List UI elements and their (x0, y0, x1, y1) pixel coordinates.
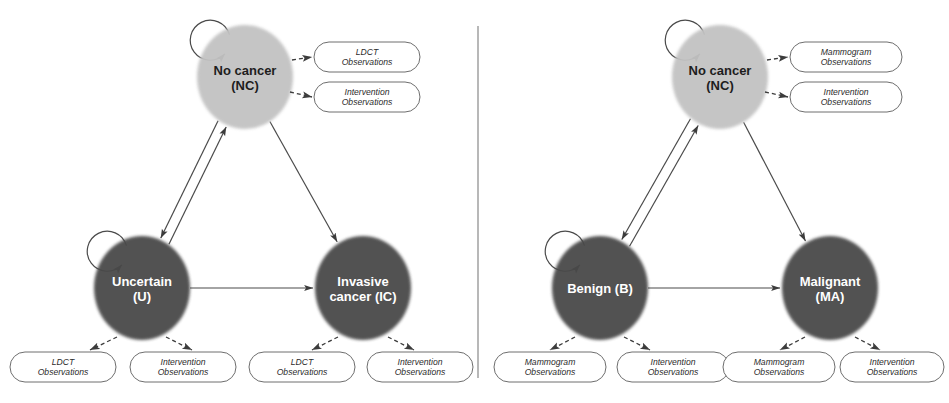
observation-u-intervention-arrow (166, 337, 192, 350)
observation-b-mammogram-arrow (550, 337, 575, 350)
observation-nc-mammogram-arrow (767, 57, 788, 60)
observation-u-ldct-arrow (90, 337, 117, 350)
state-invasive-cancer[interactable]: Invasivecancer (IC) (315, 236, 411, 340)
observation-ic-ldct-arrow (312, 337, 338, 350)
observation-nc-intervention[interactable]: InterventionObservations (765, 82, 902, 112)
observation-nc-intervention-box (314, 82, 420, 112)
state-malignant[interactable]: Malignant(MA) (782, 236, 878, 340)
transition-nc-to-b-reverse (630, 125, 699, 246)
observation-nc-intervention-arrow (290, 92, 312, 97)
transition-nc-to-ic-line (270, 121, 337, 241)
transition-nc-to-b-forward (622, 119, 691, 240)
observation-b-mammogram-box (494, 352, 606, 382)
transition-nc-to-u (161, 121, 226, 244)
observation-nc-mammogram-box (790, 42, 902, 72)
transition-nc-to-ic (270, 121, 337, 241)
observation-nc-intervention[interactable]: InterventionObservations (290, 82, 420, 112)
observation-ma-mammogram-arrow (780, 337, 805, 350)
observation-b-mammogram[interactable]: MammogramObservations (494, 337, 606, 382)
state-benign[interactable]: Benign (B) (552, 236, 648, 340)
state-node-shape (552, 236, 648, 340)
observation-ma-mammogram-box (723, 352, 835, 382)
observation-nc-intervention-arrow (765, 92, 788, 97)
observation-nc-mammogram[interactable]: MammogramObservations (767, 42, 902, 72)
state-uncertain[interactable]: Uncertain(U) (94, 236, 190, 340)
observation-u-intervention[interactable]: InterventionObservations (130, 337, 236, 382)
observation-u-intervention-box (130, 352, 236, 382)
state-no-cancer[interactable]: No cancer(NC) (197, 25, 293, 129)
transition-nc-to-u-forward (161, 121, 218, 238)
transition-nc-to-ma-line (744, 122, 806, 241)
state-nodes-group: No cancer(NC)Uncertain(U)Invasivecancer … (94, 25, 878, 340)
transition-nc-to-ma (744, 122, 806, 241)
observation-u-ldct-box (10, 352, 116, 382)
state-node-shape (94, 236, 190, 340)
observation-ic-intervention-arrow (388, 337, 414, 350)
observation-b-intervention[interactable]: InterventionObservations (617, 337, 729, 382)
state-no-cancer[interactable]: No cancer(NC) (672, 25, 768, 129)
observation-b-intervention-arrow (624, 337, 650, 350)
observation-nc-ldct-box (314, 42, 420, 72)
observation-ic-intervention-box (367, 352, 473, 382)
observation-ic-ldct-box (249, 352, 355, 382)
observation-ic-ldct[interactable]: LDCTObservations (249, 337, 355, 382)
state-node-shape (315, 236, 411, 340)
observation-ma-intervention-box (840, 352, 944, 382)
observation-u-ldct[interactable]: LDCTObservations (10, 337, 117, 382)
state-node-shape (782, 236, 878, 340)
observation-nc-ldct[interactable]: LDCTObservations (292, 42, 420, 72)
state-node-shape (672, 25, 768, 129)
observation-ma-intervention[interactable]: InterventionObservations (840, 337, 944, 382)
diagram-canvas: No cancer(NC)Uncertain(U)Invasivecancer … (0, 0, 949, 403)
observation-b-intervention-box (617, 352, 729, 382)
observation-ma-intervention-arrow (855, 337, 880, 350)
observation-ma-mammogram[interactable]: MammogramObservations (723, 337, 835, 382)
state-transition-figure: No cancer(NC)Uncertain(U)Invasivecancer … (0, 0, 949, 403)
observation-nc-intervention-box (790, 82, 902, 112)
state-node-shape (197, 25, 293, 129)
transition-nc-to-b (622, 119, 698, 246)
observation-ic-intervention[interactable]: InterventionObservations (367, 337, 473, 382)
transition-nc-to-u-reverse (169, 127, 226, 244)
observation-nc-ldct-arrow (292, 57, 312, 60)
